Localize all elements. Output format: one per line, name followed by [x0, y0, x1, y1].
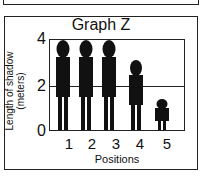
shadow-figure-3 — [102, 40, 116, 130]
y-axis-label: Length of shadow (meters) — [4, 36, 26, 146]
x-tick-5: 5 — [160, 135, 174, 152]
previous-panel-frame — [3, 0, 199, 5]
x-tick-4: 4 — [133, 135, 147, 152]
shadow-figure-5 — [155, 99, 169, 130]
x-axis-label: Positions — [49, 153, 185, 165]
x-tick-2: 2 — [85, 135, 99, 152]
x-tick-3: 3 — [109, 135, 123, 152]
x-tick-1: 1 — [62, 135, 76, 152]
shadow-figure-4 — [129, 60, 143, 130]
plot-area — [49, 39, 185, 131]
y-tick-4: 4 — [32, 30, 46, 48]
shadow-figure-2 — [79, 40, 93, 130]
chart-title: Graph Z — [0, 16, 202, 34]
y-tick-2: 2 — [32, 77, 46, 95]
y-tick-0: 0 — [32, 122, 46, 140]
shadow-figure-1 — [56, 40, 70, 130]
gridline-2 — [50, 86, 184, 87]
